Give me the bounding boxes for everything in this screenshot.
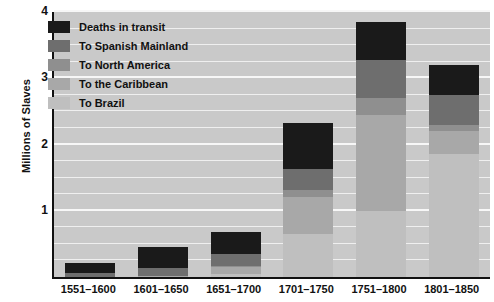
bar-1701–1750 <box>283 123 333 277</box>
legend-item: To North America <box>48 55 248 74</box>
bar-segment <box>356 22 406 60</box>
bar-segment <box>356 211 406 277</box>
bar-1551–1600 <box>65 263 115 277</box>
legend-swatch-icon <box>48 97 70 109</box>
bar-segment <box>211 254 261 266</box>
gridline-minor <box>54 259 490 260</box>
y-axis-ticks: 1234 <box>0 0 48 302</box>
bar-segment <box>211 274 261 277</box>
chart-legend: Deaths in transitTo Spanish MainlandTo N… <box>48 17 248 112</box>
gridline-minor <box>54 160 490 161</box>
bar-1601–1650 <box>138 247 188 277</box>
bar-segment <box>65 273 115 277</box>
legend-item-label: To Spanish Mainland <box>79 40 188 52</box>
gridline-major <box>54 209 490 211</box>
bar-segment <box>356 98 406 115</box>
gridline-minor <box>54 127 490 128</box>
y-axis-tick-label: 1 <box>8 204 48 216</box>
bar-1751–1800 <box>356 22 406 277</box>
legend-item-label: To the Caribbean <box>79 78 168 90</box>
legend-item: To Brazil <box>48 93 248 112</box>
bar-segment <box>356 60 406 98</box>
bar-1801–1850 <box>429 65 479 277</box>
y-axis-tick-label: 2 <box>8 138 48 150</box>
bar-segment <box>211 232 261 254</box>
bar-segment <box>283 234 333 277</box>
legend-swatch-icon <box>48 21 70 33</box>
x-axis-tick-label: 1551–1600 <box>52 283 125 295</box>
x-axis-tick-label: 1801–1850 <box>415 283 488 295</box>
legend-item-label: To North America <box>79 59 170 71</box>
gridline-minor <box>54 226 490 227</box>
x-axis-tick-label: 1651–1700 <box>197 283 270 295</box>
bar-segment <box>429 95 479 125</box>
bar-segment <box>429 65 479 95</box>
bar-segment <box>211 267 261 274</box>
bar-segment <box>429 154 479 277</box>
x-axis-tick-label: 1751–1800 <box>343 283 416 295</box>
legend-swatch-icon <box>48 78 70 90</box>
gridline-minor <box>54 177 490 178</box>
bar-segment <box>283 169 333 190</box>
x-axis-tick-label: 1701–1750 <box>270 283 343 295</box>
legend-item: Deaths in transit <box>48 17 248 36</box>
gridline-major <box>54 10 490 12</box>
bar-segment <box>356 115 406 211</box>
bar-segment <box>283 123 333 169</box>
y-axis-tick-label: 3 <box>8 71 48 83</box>
bar-segment <box>138 276 188 277</box>
legend-item-label: Deaths in transit <box>79 21 165 33</box>
bar-segment <box>283 190 333 198</box>
gridline-minor <box>54 193 490 194</box>
bar-segment <box>138 268 188 276</box>
legend-item: To Spanish Mainland <box>48 36 248 55</box>
bar-segment <box>283 197 333 233</box>
legend-item-label: To Brazil <box>79 97 125 109</box>
y-axis-tick-label: 4 <box>8 5 48 17</box>
legend-swatch-icon <box>48 59 70 71</box>
x-axis-tick-label: 1601–1650 <box>125 283 198 295</box>
gridline-major <box>54 143 490 145</box>
bar-segment <box>65 263 115 273</box>
bar-segment <box>429 125 479 132</box>
legend-item: To the Caribbean <box>48 74 248 93</box>
bar-1651–1700 <box>211 232 261 277</box>
legend-swatch-icon <box>48 40 70 52</box>
gridline-minor <box>54 243 490 244</box>
bar-segment <box>138 247 188 268</box>
chart-container: Millions of Slaves 1234 Deaths in transi… <box>0 0 494 302</box>
bar-segment <box>429 131 479 154</box>
